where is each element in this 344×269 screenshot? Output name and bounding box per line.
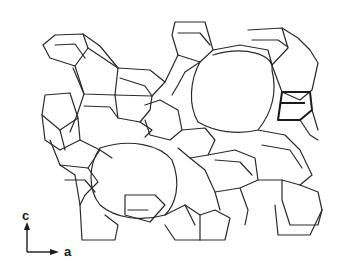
framework-diagram bbox=[0, 0, 344, 269]
a-axis-arrow-icon bbox=[50, 249, 59, 255]
a-axis-label: a bbox=[64, 244, 71, 259]
c-axis-label: c bbox=[22, 208, 29, 223]
framework-edges bbox=[42, 22, 322, 240]
c-axis-arrow-icon bbox=[24, 222, 30, 230]
axis-indicator bbox=[24, 222, 59, 255]
